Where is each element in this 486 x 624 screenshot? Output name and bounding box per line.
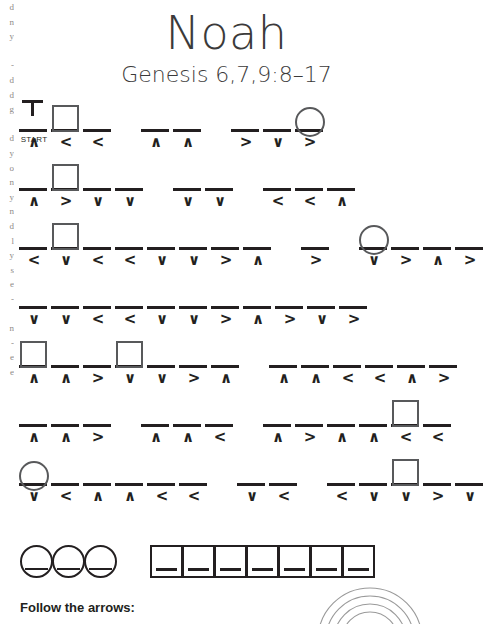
answer-blank-line[interactable]	[179, 247, 207, 250]
blank-cell[interactable]: ∧	[242, 222, 274, 266]
answer-blank-line[interactable]	[455, 483, 483, 486]
blank-cell[interactable]: ∨	[172, 163, 204, 207]
blank-cell[interactable]: ∨	[358, 458, 390, 502]
blank-cell[interactable]: <	[146, 458, 178, 502]
blank-cell[interactable]: <	[204, 399, 236, 443]
blank-cell[interactable]: ∧	[18, 340, 50, 384]
answer-blank-line[interactable]	[237, 483, 265, 486]
blank-cell[interactable]: ∧	[262, 399, 294, 443]
answer-blank-line[interactable]	[83, 483, 111, 486]
answer-blank-line[interactable]	[231, 129, 259, 132]
answer-blank-line[interactable]	[205, 424, 233, 427]
answer-blank-line[interactable]	[333, 365, 361, 368]
answer-bank-square[interactable]	[214, 545, 247, 578]
answer-blank-line[interactable]	[295, 424, 323, 427]
answer-blank-line[interactable]	[263, 129, 291, 132]
answer-blank-line[interactable]	[211, 365, 239, 368]
blank-cell[interactable]: ∧	[18, 399, 50, 443]
blank-cell[interactable]: <	[390, 399, 422, 443]
blank-cell[interactable]: ∧	[210, 340, 242, 384]
answer-bank-square[interactable]	[246, 545, 279, 578]
answer-blank-line[interactable]	[423, 483, 451, 486]
answer-blank-line[interactable]	[327, 424, 355, 427]
blank-cell[interactable]: <	[332, 340, 364, 384]
answer-blank-line[interactable]	[423, 247, 451, 250]
blank-cell[interactable]: <	[82, 104, 114, 148]
blank-cell[interactable]: ∨	[146, 340, 178, 384]
answer-blank-line[interactable]	[397, 365, 425, 368]
answer-blank-line[interactable]	[51, 483, 79, 486]
blank-cell[interactable]: ∧	[326, 163, 358, 207]
blank-cell[interactable]: ∧	[18, 163, 50, 207]
blank-cell[interactable]: <	[50, 458, 82, 502]
blank-cell[interactable]: ∧	[50, 399, 82, 443]
answer-blank-line[interactable]	[307, 306, 335, 309]
blank-cell[interactable]: ∧	[140, 104, 172, 148]
blank-cell[interactable]: ∧	[50, 340, 82, 384]
blank-cell[interactable]: ∨	[114, 340, 146, 384]
blank-cell[interactable]: ∨	[82, 163, 114, 207]
blank-cell[interactable]: >	[82, 340, 114, 384]
answer-blank-line[interactable]	[327, 483, 355, 486]
answer-blank-line[interactable]	[455, 247, 483, 250]
answer-blank-line[interactable]	[263, 424, 291, 427]
blank-cell[interactable]: ∧START	[18, 104, 50, 148]
blank-cell[interactable]: <	[50, 104, 82, 148]
blank-cell[interactable]: >	[300, 222, 332, 266]
answer-blank-line[interactable]	[141, 129, 169, 132]
blank-cell[interactable]: ∨	[18, 458, 50, 502]
blank-cell[interactable]: ∧	[172, 399, 204, 443]
blank-cell[interactable]: >	[390, 222, 422, 266]
answer-blank-line[interactable]	[115, 306, 143, 309]
blank-cell[interactable]: ∧	[422, 222, 454, 266]
answer-blank-line[interactable]	[211, 306, 239, 309]
blank-cell[interactable]: ∨	[114, 163, 146, 207]
blank-cell[interactable]: >	[210, 281, 242, 325]
answer-bank-square[interactable]	[342, 545, 375, 578]
answer-blank-line[interactable]	[83, 129, 111, 132]
blank-cell[interactable]: >	[210, 222, 242, 266]
blank-cell[interactable]: ∧	[396, 340, 428, 384]
answer-blank-line[interactable]	[83, 365, 111, 368]
answer-blank-line[interactable]	[423, 424, 451, 427]
blank-cell[interactable]: <	[178, 458, 210, 502]
blank-cell[interactable]: <	[294, 163, 326, 207]
answer-blank-line[interactable]	[147, 306, 175, 309]
answer-blank-line[interactable]	[141, 424, 169, 427]
blank-cell[interactable]: ∨	[178, 222, 210, 266]
answer-bank-square[interactable]	[278, 545, 311, 578]
answer-blank-line[interactable]	[263, 188, 291, 191]
blank-cell[interactable]: ∨	[306, 281, 338, 325]
blank-cell[interactable]: ∧	[172, 104, 204, 148]
answer-blank-line[interactable]	[83, 424, 111, 427]
blank-cell[interactable]: <	[262, 163, 294, 207]
answer-blank-line[interactable]	[339, 306, 367, 309]
answer-blank-line[interactable]	[179, 483, 207, 486]
blank-cell[interactable]: ∨	[18, 281, 50, 325]
answer-blank-line[interactable]	[19, 188, 47, 191]
blank-cell[interactable]: <	[364, 340, 396, 384]
blank-cell[interactable]: <	[82, 222, 114, 266]
blank-cell[interactable]: ∨	[178, 281, 210, 325]
answer-blank-line[interactable]	[173, 424, 201, 427]
answer-blank-line[interactable]	[179, 306, 207, 309]
blank-cell[interactable]: <	[268, 458, 300, 502]
blank-cell[interactable]: <	[82, 281, 114, 325]
answer-blank-line[interactable]	[147, 247, 175, 250]
answer-blank-line[interactable]	[295, 188, 323, 191]
blank-cell[interactable]: ∨	[236, 458, 268, 502]
blank-cell[interactable]: ∨	[50, 281, 82, 325]
blank-cell[interactable]: >	[82, 399, 114, 443]
answer-blank-line[interactable]	[147, 483, 175, 486]
blank-cell[interactable]: <	[326, 458, 358, 502]
answer-blank-line[interactable]	[19, 306, 47, 309]
answer-blank-line[interactable]	[179, 365, 207, 368]
blank-cell[interactable]: ∧	[326, 399, 358, 443]
blank-cell[interactable]: ∨	[454, 458, 486, 502]
blank-cell[interactable]: >	[294, 399, 326, 443]
answer-blank-line[interactable]	[205, 188, 233, 191]
answer-bank-square[interactable]	[182, 545, 215, 578]
answer-blank-line[interactable]	[147, 365, 175, 368]
blank-cell[interactable]: ∧	[82, 458, 114, 502]
answer-blank-line[interactable]	[115, 188, 143, 191]
